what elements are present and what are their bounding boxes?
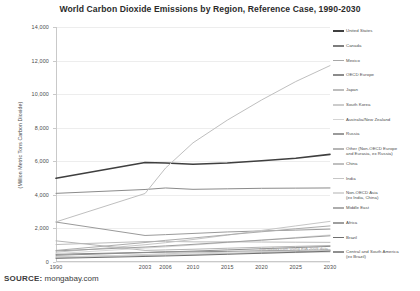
series-line: [56, 188, 330, 193]
legend-label: Russia: [346, 131, 359, 136]
legend-swatch: [333, 30, 344, 32]
y-axis-tick-labels: 02,0004,0006,0008,00010,00012,00014,000: [0, 27, 54, 262]
x-tick-label: 2010: [187, 264, 200, 270]
legend-swatch: [333, 148, 344, 150]
chart-legend: United StatesCanadaMexicoOECD EuropeJapa…: [333, 28, 420, 264]
legend-label: Central and South America (ex Brazil): [346, 249, 399, 259]
legend-swatch: [333, 89, 344, 91]
legend-swatch: [333, 222, 344, 224]
x-tick-label: 2025: [289, 264, 302, 270]
legend-label: Mexico: [346, 58, 360, 63]
legend-item[interactable]: OECD Europe: [333, 72, 374, 77]
legend-swatch: [333, 237, 344, 239]
legend-label: Other (Non-OECD Europe and Eurasia, ex R…: [346, 146, 397, 156]
legend-item[interactable]: Russia: [333, 131, 359, 136]
legend-item[interactable]: Australia/New Zealand: [333, 117, 390, 122]
y-tick-label: 4,000: [35, 192, 49, 198]
legend-item[interactable]: United States: [333, 28, 372, 33]
legend-label: Australia/New Zealand: [346, 117, 390, 122]
legend-label: India: [346, 176, 356, 181]
legend-item[interactable]: Non-OECD Asia (ex India, China): [333, 190, 378, 200]
series-line: [56, 222, 330, 235]
legend-item[interactable]: Mexico: [333, 58, 360, 63]
x-tick-label: 2015: [221, 264, 234, 270]
legend-item[interactable]: India: [333, 176, 356, 181]
plot-credit: mongabay.com using EIA 2009 data: [259, 246, 328, 251]
legend-item[interactable]: Other (Non-OECD Europe and Eurasia, ex R…: [333, 146, 397, 156]
legend-label: Canada: [346, 43, 361, 48]
legend-swatch: [333, 163, 344, 165]
y-tick-label: 12,000: [32, 58, 49, 64]
gridline: [56, 262, 330, 263]
legend-swatch: [333, 60, 344, 62]
legend-label: Non-OECD Asia (ex India, China): [346, 190, 378, 200]
legend-label: Africa: [346, 220, 357, 225]
legend-label: United States: [346, 28, 372, 33]
legend-swatch: [333, 119, 344, 121]
legend-swatch: [333, 251, 344, 253]
legend-item[interactable]: China: [333, 161, 357, 166]
legend-item[interactable]: Africa: [333, 220, 357, 225]
x-tick-label: 2020: [255, 264, 268, 270]
y-tick-label: 10,000: [32, 91, 49, 97]
x-tick-label: 2030: [324, 264, 337, 270]
legend-swatch: [333, 45, 344, 47]
y-tick-label: 6,000: [35, 158, 49, 164]
y-tick-label: 14,000: [32, 24, 49, 30]
chart-screenshot: World Carbon Dioxide Emissions by Region…: [0, 0, 420, 291]
legend-swatch: [333, 207, 344, 209]
legend-item[interactable]: Canada: [333, 43, 361, 48]
legend-label: China: [346, 161, 357, 166]
legend-label: South Korea: [346, 102, 370, 107]
series-lines: [56, 27, 330, 262]
legend-swatch: [333, 178, 344, 180]
legend-swatch: [333, 133, 344, 135]
legend-swatch: [333, 74, 344, 76]
plot-area: mongabay.com using EIA 2009 data: [56, 27, 330, 262]
x-tick-label: 2003: [139, 264, 152, 270]
legend-swatch: [333, 192, 344, 194]
series-line: [56, 154, 330, 178]
y-tick-label: 0: [46, 259, 49, 265]
source-line: SOURCE: mongabay.com: [4, 274, 99, 283]
source-label: SOURCE:: [4, 274, 42, 283]
legend-label: Brazil: [346, 235, 357, 240]
y-tick-mark: [53, 262, 56, 263]
legend-label: Japan: [346, 87, 358, 92]
legend-label: OECD Europe: [346, 72, 374, 77]
chart-title: World Carbon Dioxide Emissions by Region…: [0, 4, 420, 14]
series-line: [56, 66, 330, 222]
legend-item[interactable]: Brazil: [333, 235, 357, 240]
y-tick-label: 8,000: [35, 125, 49, 131]
source-value: mongabay.com: [42, 274, 98, 283]
legend-item[interactable]: Central and South America (ex Brazil): [333, 249, 399, 259]
x-tick-label: 1990: [50, 264, 63, 270]
legend-label: Middle East: [346, 205, 369, 210]
legend-item[interactable]: Middle East: [333, 205, 369, 210]
legend-item[interactable]: Japan: [333, 87, 358, 92]
legend-item[interactable]: South Korea: [333, 102, 370, 107]
x-tick-label: 2006: [159, 264, 172, 270]
y-tick-label: 2,000: [35, 225, 49, 231]
legend-swatch: [333, 104, 344, 106]
